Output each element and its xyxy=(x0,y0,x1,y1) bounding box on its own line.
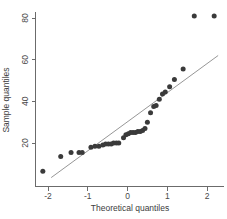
data-point xyxy=(163,89,168,94)
y-tick-label: 80 xyxy=(20,13,30,23)
y-axis-title: Sample quantiles xyxy=(1,67,11,132)
x-tick-label: 0 xyxy=(125,191,130,201)
data-point xyxy=(181,67,186,72)
y-tick-label: 60 xyxy=(20,55,30,65)
data-point xyxy=(157,97,162,102)
y-axis-ticks: 20406080 xyxy=(20,13,36,148)
x-axis-title: Theoretical quantiles xyxy=(91,203,169,213)
y-tick-label: 40 xyxy=(20,96,30,106)
data-point xyxy=(40,169,45,174)
data-point xyxy=(154,103,159,108)
y-tick-label: 20 xyxy=(20,138,30,148)
data-point xyxy=(172,77,177,82)
data-point xyxy=(145,120,150,125)
data-point xyxy=(116,141,121,146)
x-tick-label: 1 xyxy=(165,191,170,201)
x-tick-label: 2 xyxy=(205,191,210,201)
qq-reference-line-segment xyxy=(51,56,218,178)
data-point xyxy=(167,84,172,89)
scatter-points-group xyxy=(40,13,216,173)
qq-plot-figure: -2-1012 20406080 Theoretical quantiles S… xyxy=(0,0,227,219)
x-tick-label: -1 xyxy=(84,191,92,201)
data-point xyxy=(212,13,217,18)
data-point xyxy=(58,154,63,159)
data-point xyxy=(192,13,197,18)
data-point xyxy=(69,150,74,155)
x-axis-ticks: -2-1012 xyxy=(44,187,209,202)
data-point xyxy=(148,110,153,115)
data-point xyxy=(80,150,85,155)
qq-plot-canvas: -2-1012 20406080 Theoretical quantiles S… xyxy=(0,0,227,219)
data-point xyxy=(142,126,147,131)
x-tick-label: -2 xyxy=(44,191,52,201)
qq-reference-line xyxy=(51,56,218,178)
